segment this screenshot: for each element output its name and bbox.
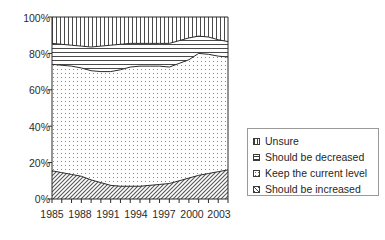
legend-item-unsure[interactable]: Unsure — [253, 133, 373, 149]
chart-container: 100% 80% 60% 40% 20% 0% 1985 1988 1991 1… — [0, 0, 385, 240]
legend-label-unsure: Unsure — [265, 135, 299, 147]
legend-label-should-be-decreased: Should be decreased — [265, 151, 364, 163]
legend-swatch-vertical-lines-icon — [253, 138, 260, 145]
plot-area — [0, 0, 385, 240]
legend-label-should-be-increased: Should be increased — [265, 183, 361, 195]
legend-swatch-diagonal-hatch-icon — [253, 186, 260, 193]
legend-label-keep-the-current-level: Keep the current level — [265, 167, 367, 179]
chart-legend: Unsure Should be decreased Keep the curr… — [247, 128, 379, 196]
legend-item-should-be-increased[interactable]: Should be increased — [253, 181, 373, 197]
legend-item-keep-the-current-level[interactable]: Keep the current level — [253, 165, 373, 181]
x-axis-ticks — [52, 199, 228, 203]
legend-swatch-horizontal-lines-icon — [253, 154, 260, 161]
legend-item-should-be-decreased[interactable]: Should be decreased — [253, 149, 373, 165]
y-axis-ticks — [48, 17, 52, 199]
legend-swatch-dotted-stipple-icon — [253, 170, 260, 177]
area-series-keep-the-current-level — [52, 53, 228, 186]
